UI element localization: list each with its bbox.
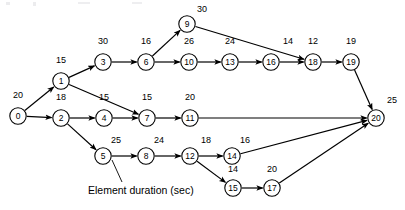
node-label-11: 11 xyxy=(186,113,195,123)
duration-label-13: 24 xyxy=(225,36,235,46)
node-label-10: 10 xyxy=(184,57,194,67)
duration-label-15: 14 xyxy=(228,164,238,174)
duration-label-14: 16 xyxy=(240,135,250,145)
node-7: 7 xyxy=(139,110,155,126)
edge-2-to-5 xyxy=(68,124,97,150)
node-label-5: 5 xyxy=(101,151,106,161)
node-label-19: 19 xyxy=(346,57,356,67)
node-15: 15 xyxy=(225,180,241,196)
node-18: 18 xyxy=(305,54,321,70)
diagram-canvas: 01234567891011121314151617181920 2015183… xyxy=(0,0,405,210)
node-label-16: 16 xyxy=(266,57,276,67)
node-label-14: 14 xyxy=(227,151,237,161)
node-19: 19 xyxy=(343,54,359,70)
duration-label-17: 20 xyxy=(267,164,277,174)
duration-label-4: 15 xyxy=(99,92,109,102)
annotation-leader-line xyxy=(112,160,122,182)
node-0: 0 xyxy=(10,108,26,124)
node-5: 5 xyxy=(95,148,111,164)
node-3: 3 xyxy=(95,54,111,70)
node-label-2: 2 xyxy=(59,113,64,123)
node-label-18: 18 xyxy=(308,57,318,67)
duration-label-3: 30 xyxy=(98,36,108,46)
edge-1-to-3 xyxy=(69,66,94,77)
duration-label-19: 19 xyxy=(346,36,356,46)
node-label-15: 15 xyxy=(228,183,238,193)
node-11: 11 xyxy=(182,110,198,126)
duration-label-12: 18 xyxy=(201,135,211,145)
node-label-0: 0 xyxy=(16,111,21,121)
node-8: 8 xyxy=(138,148,154,164)
node-label-12: 12 xyxy=(185,151,195,161)
duration-label-7: 15 xyxy=(142,92,152,102)
node-label-9: 9 xyxy=(185,19,190,29)
node-2: 2 xyxy=(53,110,69,126)
node-13: 13 xyxy=(222,54,238,70)
node-6: 6 xyxy=(138,54,154,70)
node-layer: 01234567891011121314151617181920 xyxy=(10,16,384,196)
duration-label-0: 20 xyxy=(13,90,23,100)
duration-label-18: 12 xyxy=(308,36,318,46)
node-label-13: 13 xyxy=(225,57,235,67)
node-label-4: 4 xyxy=(102,113,107,123)
node-9: 9 xyxy=(179,16,195,32)
node-label-3: 3 xyxy=(101,57,106,67)
duration-label-20: 25 xyxy=(387,95,397,105)
edge-0-to-1 xyxy=(25,87,54,111)
duration-label-2: 18 xyxy=(56,92,66,102)
node-12: 12 xyxy=(182,148,198,164)
duration-label-8: 24 xyxy=(154,135,164,145)
edge-19-to-20 xyxy=(355,70,373,109)
network-diagram-svg: 01234567891011121314151617181920 2015183… xyxy=(0,0,405,210)
node-17: 17 xyxy=(264,180,280,196)
duration-label-10: 26 xyxy=(184,36,194,46)
edge-layer xyxy=(25,27,372,188)
node-label-8: 8 xyxy=(144,151,149,161)
duration-label-1: 15 xyxy=(56,55,66,65)
node-label-20: 20 xyxy=(371,113,381,123)
duration-label-5: 25 xyxy=(111,135,121,145)
edge-6-to-9 xyxy=(152,30,180,56)
node-14: 14 xyxy=(224,148,240,164)
node-1: 1 xyxy=(53,73,69,89)
edge-0-to-2 xyxy=(27,116,52,117)
duration-label-16: 14 xyxy=(283,36,293,46)
node-4: 4 xyxy=(96,110,112,126)
node-label-1: 1 xyxy=(59,76,64,86)
node-label-17: 17 xyxy=(267,183,277,193)
node-label-6: 6 xyxy=(144,57,149,67)
node-20: 20 xyxy=(368,110,384,126)
duration-label-9: 30 xyxy=(197,4,207,14)
annotation-caption: Element duration (sec) xyxy=(88,184,194,196)
edge-12-to-15 xyxy=(197,161,225,182)
node-label-7: 7 xyxy=(145,113,150,123)
duration-label-6: 16 xyxy=(141,36,151,46)
node-16: 16 xyxy=(263,54,279,70)
duration-label-11: 20 xyxy=(185,92,195,102)
node-10: 10 xyxy=(181,54,197,70)
annotation-layer: Element duration (sec) xyxy=(88,160,194,196)
